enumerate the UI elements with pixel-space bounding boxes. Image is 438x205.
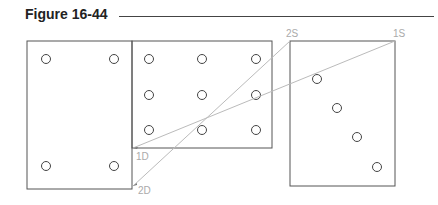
label-2s: 2S [286,28,299,39]
line-2s-2d [133,41,290,186]
label-2d: 2D [138,185,151,196]
line-1s-1d [133,41,395,148]
label-1s: 1S [393,28,406,39]
right-panel-holes [313,75,382,172]
label-1d: 1D [136,151,149,162]
middle-panel-holes [145,55,261,135]
diagram-canvas: 2S 1S 1D 2D [0,0,438,205]
left-panel-holes [42,55,119,171]
